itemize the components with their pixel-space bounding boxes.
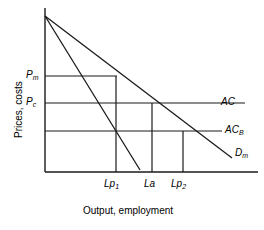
quantity-label-lp1-subscript: 1 — [115, 183, 119, 190]
demand-curve-dm — [45, 16, 232, 158]
x-axis-title: Output, employment — [83, 206, 173, 216]
quantity-label-lp2-subscript: 2 — [182, 183, 186, 190]
quantity-label-lp1-text: Lp — [104, 178, 115, 189]
curve-label-dm-subscript: m — [242, 152, 248, 159]
curve-label-acb-subscript: B — [239, 129, 244, 136]
economics-diagram: Prices, costs Output, employment Pm Pc A… — [0, 0, 264, 230]
chart-plot-area — [0, 0, 264, 230]
curve-label-acb: ACB — [225, 125, 244, 135]
quantity-label-la-text: La — [144, 178, 155, 189]
quantity-label-la: La — [144, 179, 155, 189]
quantity-label-lp2-text: Lp — [171, 178, 182, 189]
price-label-pm-subscript: m — [33, 74, 39, 81]
quantity-label-lp2: Lp2 — [171, 179, 186, 189]
price-label-pc: Pc — [26, 97, 36, 107]
price-label-pc-subscript: c — [33, 101, 37, 108]
curve-label-dm: Dm — [235, 148, 248, 158]
curve-label-ac-text: AC — [221, 96, 235, 107]
price-label-pc-text: P — [26, 96, 33, 107]
marginal-revenue-curve — [45, 16, 140, 170]
price-label-pm: Pm — [26, 70, 39, 80]
quantity-label-lp1: Lp1 — [104, 179, 119, 189]
curve-label-ac: AC — [221, 97, 235, 107]
y-axis-title: Prices, costs — [14, 81, 24, 138]
price-label-pm-text: P — [26, 69, 33, 80]
curve-label-acb-text: AC — [225, 124, 239, 135]
